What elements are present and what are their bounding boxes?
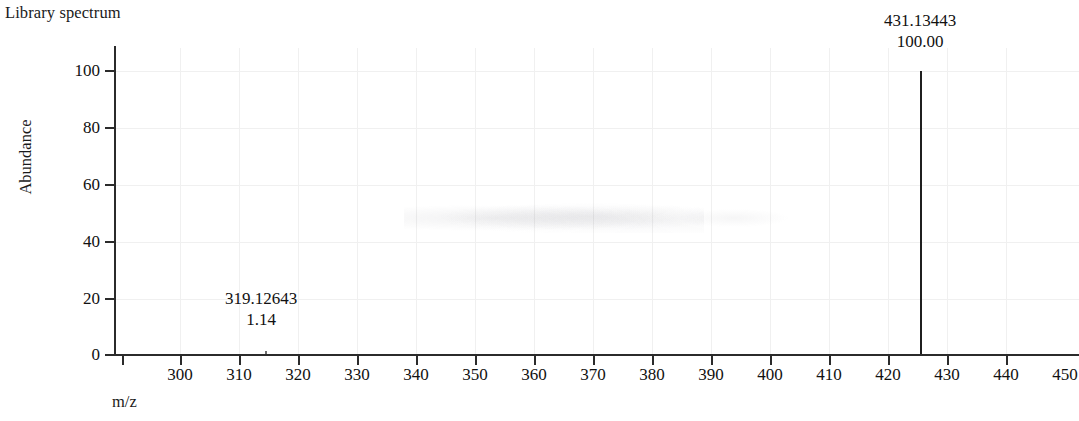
gridline-vertical (711, 48, 712, 355)
gridline-vertical (1006, 48, 1007, 355)
x-axis-tick (357, 356, 359, 365)
peak-label-319: 319.12643 1.14 (166, 288, 356, 330)
x-axis-tick (770, 356, 772, 365)
x-axis-tick (475, 356, 477, 365)
gridline-vertical (652, 48, 653, 355)
gridline-vertical (947, 48, 948, 355)
gridline-vertical (357, 48, 358, 355)
y-axis-tick (105, 184, 114, 186)
gridline-vertical (829, 48, 830, 355)
x-axis-tick-label: 450 (1030, 366, 1079, 384)
x-axis-tick (593, 356, 595, 365)
x-axis-tick (239, 356, 241, 365)
y-axis-line (114, 46, 116, 356)
peak-mz-value: 319.12643 (166, 288, 356, 309)
x-axis-tick (122, 356, 124, 365)
x-axis-tick (416, 356, 418, 365)
y-axis-tick-label: 20 (55, 290, 100, 307)
x-axis-tick (298, 356, 300, 365)
peak-intensity-value: 1.14 (166, 309, 356, 330)
x-axis-tick (652, 356, 654, 365)
x-axis-line (114, 354, 1079, 356)
x-axis-tick (888, 356, 890, 365)
gridline-vertical (416, 48, 417, 355)
y-axis-tick-label: 40 (55, 233, 100, 250)
spectrum-peak (920, 71, 922, 355)
y-axis-tick (105, 127, 114, 129)
x-axis-tick (711, 356, 713, 365)
y-axis-tick (105, 241, 114, 243)
y-axis-tick (105, 354, 114, 356)
x-axis-tick (534, 356, 536, 365)
y-axis-tick (105, 70, 114, 72)
peak-intensity-value: 100.00 (825, 31, 1015, 52)
x-axis-tick (829, 356, 831, 365)
scan-artifact (674, 208, 794, 228)
peak-label-431: 431.13443 100.00 (825, 10, 1015, 52)
y-axis-tick (105, 298, 114, 300)
gridline-vertical (888, 48, 889, 355)
gridline-horizontal (114, 185, 1079, 186)
y-axis-title: Abundance (17, 87, 35, 227)
gridline-horizontal (114, 71, 1079, 72)
y-axis-tick-label: 100 (55, 62, 100, 79)
chart-title: Library spectrum (5, 3, 121, 23)
y-axis-tick-label: 60 (55, 176, 100, 193)
gridline-vertical (770, 48, 771, 355)
x-axis-tick (1006, 356, 1008, 365)
y-axis-tick-label: 80 (55, 119, 100, 136)
gridline-vertical (593, 48, 594, 355)
x-axis-tick (947, 356, 949, 365)
scan-artifact (404, 203, 704, 233)
x-axis-title: m/z (112, 393, 137, 411)
gridline-vertical (534, 48, 535, 355)
gridline-horizontal (114, 242, 1079, 243)
mass-spectrum-chart: Library spectrum 319.12643 1.14 (0, 0, 1079, 421)
y-axis-tick-label: 0 (55, 346, 100, 363)
gridline-horizontal (114, 128, 1079, 129)
x-axis-tick (180, 356, 182, 365)
gridline-vertical (475, 48, 476, 355)
peak-mz-value: 431.13443 (825, 10, 1015, 31)
